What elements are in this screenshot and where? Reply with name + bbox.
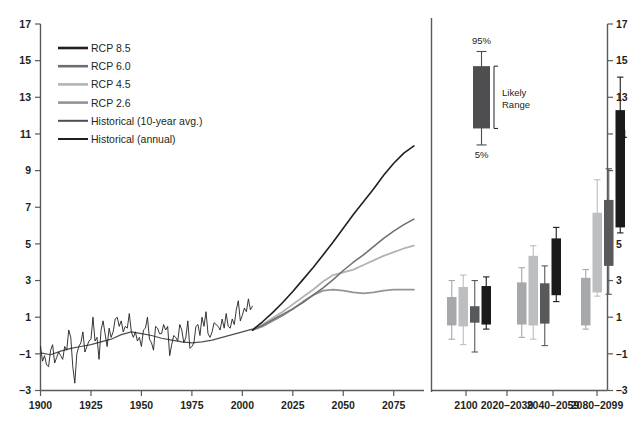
range-bar bbox=[581, 270, 591, 330]
climate-projection-figure: –3–11357911131517 1900192519501975200020… bbox=[0, 0, 640, 424]
range-box bbox=[470, 306, 480, 322]
range-box bbox=[604, 200, 614, 266]
left-x-tick-label: 1925 bbox=[79, 399, 103, 411]
right-y-tick-label: 5 bbox=[616, 238, 622, 250]
range-box bbox=[616, 110, 626, 227]
left-x-tick-label: 2050 bbox=[332, 399, 356, 411]
left-x-tick-label: 1950 bbox=[130, 399, 154, 411]
left-x-tick-label: 1975 bbox=[180, 399, 204, 411]
left-y-tick-label: 13 bbox=[19, 91, 31, 103]
right-x-tick-label: 2020–2039 bbox=[481, 399, 534, 411]
right-y-tick-label: 15 bbox=[616, 54, 628, 66]
legend-item-label: Historical (annual) bbox=[91, 133, 176, 145]
inset-range-box bbox=[473, 66, 490, 128]
range-box bbox=[540, 283, 550, 323]
right-y-tick-label: 3 bbox=[616, 274, 622, 286]
left-y-tick-label: 3 bbox=[25, 274, 31, 286]
range-box bbox=[552, 238, 562, 295]
range-box bbox=[581, 278, 591, 326]
left-y-tick-label: 11 bbox=[20, 128, 31, 140]
left-x-tick-label: 1900 bbox=[29, 399, 53, 411]
legend-item-label: RCP 6.0 bbox=[91, 60, 131, 72]
right-y-tick-label: 13 bbox=[616, 91, 628, 103]
range-box bbox=[529, 256, 539, 326]
legend-item-label: RCP 4.5 bbox=[91, 78, 131, 90]
left-y-tick-label: 5 bbox=[25, 238, 31, 250]
range-bar bbox=[552, 227, 562, 301]
range-box bbox=[517, 282, 527, 324]
legend-item-label: Historical (10-year avg.) bbox=[91, 115, 202, 127]
right-y-tick-label: 17 bbox=[616, 18, 628, 30]
left-y-tick-label: 7 bbox=[25, 201, 31, 213]
left-y-tick-label: –1 bbox=[19, 348, 31, 360]
left-y-tick-label: –3 bbox=[19, 384, 31, 396]
left-x-tick-label: 2025 bbox=[281, 399, 305, 411]
range-box bbox=[593, 213, 603, 293]
right-y-tick-label: 1 bbox=[616, 311, 622, 323]
right-y-tick-label: –3 bbox=[616, 384, 628, 396]
legend-item-label: RCP 2.6 bbox=[91, 97, 131, 109]
range-box bbox=[459, 287, 469, 326]
inset-upper-label: 95% bbox=[472, 35, 492, 46]
range-bar bbox=[529, 246, 539, 339]
chart-svg: –3–11357911131517 1900192519501975200020… bbox=[0, 0, 640, 424]
left-x-tick-label: 2075 bbox=[382, 399, 406, 411]
left-y-tick-label: 1 bbox=[25, 311, 31, 323]
likely-range-label-line2: Range bbox=[502, 99, 530, 110]
right-x-tick-label: 2100 bbox=[454, 399, 478, 411]
left-x-tick-label: 2000 bbox=[231, 399, 255, 411]
right-y-tick-label: –1 bbox=[616, 348, 628, 360]
likely-range-label-line1: Likely bbox=[502, 87, 527, 98]
range-box bbox=[447, 297, 457, 325]
right-x-tick-label: 2080–2099 bbox=[571, 399, 624, 411]
inset-lower-label: 5% bbox=[475, 149, 489, 160]
left-y-tick-label: 17 bbox=[19, 18, 31, 30]
left-y-tick-label: 15 bbox=[19, 54, 31, 66]
left-y-tick-label: 9 bbox=[25, 164, 31, 176]
range-box bbox=[482, 286, 492, 324]
legend-item-label: RCP 8.5 bbox=[91, 42, 131, 54]
